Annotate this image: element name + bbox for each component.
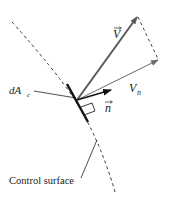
normal-velocity-vector <box>77 60 158 100</box>
diagram-canvas: V V n n dA c Control surface <box>0 0 184 206</box>
projection-dashed-line <box>138 17 158 59</box>
svg-text:dA: dA <box>9 84 22 96</box>
surface-leader <box>81 140 97 178</box>
svg-text:c: c <box>27 91 31 99</box>
area-element-label: dA c <box>9 84 31 99</box>
control-surface-label: Control surface <box>9 175 74 186</box>
unit-normal-label: n <box>105 101 113 116</box>
normal-velocity-label: V n <box>129 81 141 97</box>
svg-text:n: n <box>137 88 141 97</box>
velocity-vector <box>77 17 137 100</box>
control-surface-curve <box>12 22 115 192</box>
